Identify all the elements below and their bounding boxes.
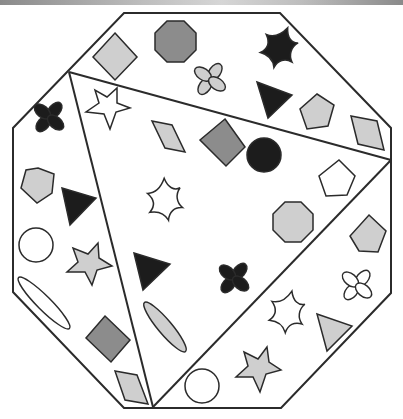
puzzle-canvas: [0, 0, 403, 419]
circle-shape: [185, 369, 219, 403]
circle-shape: [247, 138, 281, 172]
octagon-shape: [273, 202, 313, 242]
circle-shape: [19, 228, 53, 262]
octagon-shape: [155, 21, 196, 62]
